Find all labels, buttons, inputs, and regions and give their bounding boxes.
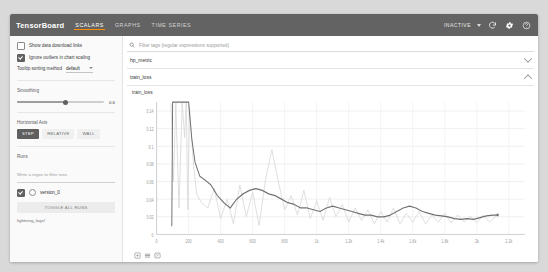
- axis-wall-button[interactable]: WALL: [77, 129, 99, 139]
- smoothing-slider-knob[interactable]: [63, 100, 68, 105]
- main-content: Filter tags (regular expressions support…: [123, 36, 538, 262]
- horizontal-axis-label: Horizontal Axis: [17, 120, 115, 125]
- train-loss-panel: train_loss 00.020.040.060.080.10.120.140…: [127, 86, 534, 262]
- chevron-down-icon[interactable]: [477, 24, 481, 27]
- tab-scalars[interactable]: SCALARS: [74, 20, 105, 30]
- chart-title: train_loss: [132, 90, 531, 95]
- svg-text:0.12: 0.12: [146, 127, 154, 133]
- chevron-down-icon: [89, 67, 93, 69]
- tensorboard-logo: TensorBoard: [16, 21, 64, 30]
- reset-icon[interactable]: [154, 252, 161, 259]
- svg-text:1k: 1k: [315, 238, 320, 244]
- show-download-links-row[interactable]: Show data download links: [17, 42, 115, 50]
- svg-text:0.1: 0.1: [148, 144, 154, 150]
- tensorboard-window: TensorBoard SCALARS GRAPHS TIME SERIES I…: [10, 14, 538, 262]
- app-body: Show data download links Ignore outliers…: [10, 36, 538, 262]
- run-item-version-0[interactable]: version_0: [17, 189, 115, 197]
- svg-text:0.14: 0.14: [146, 109, 154, 115]
- tag-filter-input[interactable]: Filter tags (regular expressions support…: [127, 36, 534, 52]
- train-loss-chart[interactable]: 00.020.040.060.080.10.120.14020040060080…: [130, 97, 531, 250]
- run-checkbox[interactable]: [17, 189, 25, 197]
- tooltip-sorting-select[interactable]: default: [66, 66, 93, 73]
- svg-text:200: 200: [186, 238, 193, 244]
- tab-time-series[interactable]: TIME SERIES: [151, 20, 193, 30]
- smoothing-value: 0.6: [109, 100, 115, 105]
- chevron-down-icon[interactable]: [524, 54, 532, 62]
- chevron-up-icon[interactable]: [524, 74, 532, 82]
- ignore-outliers-checkbox[interactable]: [17, 54, 25, 62]
- divider: [17, 80, 115, 81]
- chart-svg: 00.020.040.060.080.10.120.14020040060080…: [130, 97, 531, 250]
- tag-filter-placeholder: Filter tags (regular expressions support…: [139, 43, 229, 48]
- expand-icon[interactable]: [134, 252, 141, 259]
- top-bar: TensorBoard SCALARS GRAPHS TIME SERIES I…: [10, 14, 538, 36]
- help-icon[interactable]: [521, 20, 532, 31]
- chart-buttons: [130, 250, 531, 262]
- inactive-dropdown-label[interactable]: INACTIVE: [444, 22, 471, 28]
- settings-icon[interactable]: [504, 20, 515, 31]
- svg-text:0.08: 0.08: [146, 162, 154, 168]
- svg-text:2.2k: 2.2k: [505, 238, 513, 244]
- accordion-title: hp_metric: [130, 57, 152, 63]
- top-bar-actions: INACTIVE: [444, 20, 532, 31]
- pan-icon[interactable]: [144, 252, 151, 259]
- accordion-title: train_loss: [130, 74, 151, 80]
- tab-graphs[interactable]: GRAPHS: [114, 20, 142, 30]
- accordion-train-loss[interactable]: train_loss: [127, 69, 534, 86]
- ignore-outliers-row[interactable]: Ignore outliers in chart scaling: [17, 54, 115, 62]
- axis-step-button[interactable]: STEP: [17, 129, 39, 139]
- toggle-all-runs-button[interactable]: TOGGLE ALL RUNS: [17, 202, 115, 213]
- smoothing-slider-fill: [17, 101, 66, 103]
- refresh-icon[interactable]: [487, 20, 498, 31]
- tooltip-sorting-label: Tooltip sorting method: [17, 66, 62, 71]
- accordion-hp-metric[interactable]: hp_metric: [127, 52, 534, 69]
- runs-filter-input[interactable]: Write a regex to filter runs: [17, 162, 115, 183]
- svg-text:1.8k: 1.8k: [441, 238, 449, 244]
- svg-text:0: 0: [151, 232, 154, 238]
- runs-label: Runs: [17, 154, 115, 159]
- ignore-outliers-label: Ignore outliers in chart scaling: [29, 55, 90, 60]
- svg-text:1.2k: 1.2k: [345, 238, 353, 244]
- svg-text:0.06: 0.06: [146, 179, 154, 185]
- smoothing-label: Smoothing: [17, 88, 115, 93]
- svg-text:0.04: 0.04: [146, 197, 154, 203]
- svg-text:400: 400: [218, 238, 225, 244]
- axis-relative-button[interactable]: RELATIVE: [42, 129, 74, 139]
- tooltip-sorting-value: default: [66, 66, 80, 71]
- smoothing-slider[interactable]: [17, 101, 104, 103]
- run-color-dot: [29, 189, 36, 196]
- nav-tabs: SCALARS GRAPHS TIME SERIES: [74, 20, 444, 30]
- smoothing-slider-row[interactable]: 0.6: [17, 100, 115, 105]
- svg-text:600: 600: [250, 238, 257, 244]
- run-name: version_0: [40, 190, 60, 195]
- show-download-links-label: Show data download links: [29, 43, 82, 48]
- svg-text:1.4k: 1.4k: [377, 238, 385, 244]
- svg-text:1.6k: 1.6k: [409, 238, 417, 244]
- svg-text:800: 800: [282, 238, 289, 244]
- divider: [17, 146, 115, 147]
- log-directory-label: lightning_logs/: [17, 218, 115, 223]
- tooltip-sorting-row[interactable]: Tooltip sorting method default: [17, 66, 115, 73]
- search-icon: [129, 42, 135, 48]
- horizontal-axis-buttons: STEP RELATIVE WALL: [17, 129, 115, 139]
- show-download-links-checkbox[interactable]: [17, 42, 25, 50]
- divider: [17, 112, 115, 113]
- svg-text:0.02: 0.02: [146, 215, 154, 221]
- sidebar: Show data download links Ignore outliers…: [10, 36, 123, 262]
- svg-text:0: 0: [156, 238, 159, 244]
- svg-text:2k: 2k: [475, 238, 480, 244]
- runs-filter-placeholder: Write a regex to filter runs: [17, 172, 67, 177]
